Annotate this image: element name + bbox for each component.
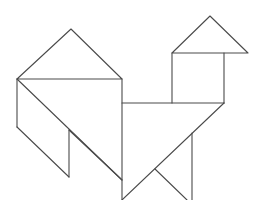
leg-diagonal	[122, 103, 224, 200]
parallelogram-mid-bottom	[69, 130, 122, 180]
parallelogram-left-bottom	[17, 127, 69, 177]
foot-triangle-edge	[155, 169, 187, 200]
tangram-rooster-figure	[0, 0, 269, 200]
large-triangle-top	[17, 29, 122, 79]
small-triangle-head	[172, 16, 248, 53]
